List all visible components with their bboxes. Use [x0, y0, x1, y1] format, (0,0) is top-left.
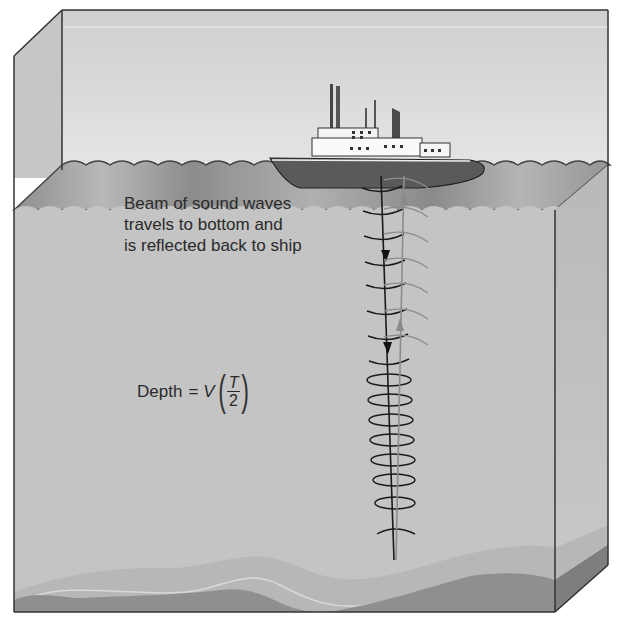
- formula-velocity: V: [203, 381, 214, 402]
- formula-lhs: Depth: [137, 381, 182, 402]
- beam-caption: Beam of sound waves travels to bottom an…: [124, 193, 424, 256]
- formula-fraction: T 2: [227, 374, 241, 409]
- formula-equals: =: [188, 381, 198, 402]
- caption-line: travels to bottom and: [124, 214, 424, 235]
- echo-sounding-diagram: [0, 0, 621, 629]
- formula-denominator: 2: [229, 392, 238, 409]
- depth-formula: Depth = V ( T 2 ): [137, 370, 252, 412]
- formula-numerator: T: [227, 374, 241, 392]
- air-region: [14, 10, 608, 178]
- caption-line: is reflected back to ship: [124, 235, 424, 256]
- formula-open-paren: (: [218, 370, 226, 412]
- caption-line: Beam of sound waves: [124, 193, 424, 214]
- formula-close-paren: ): [242, 370, 250, 412]
